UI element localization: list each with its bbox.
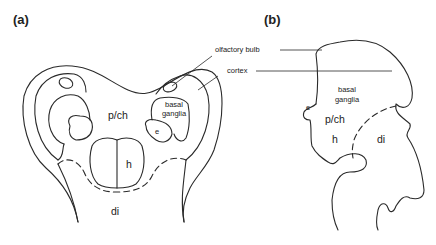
- panel-b-label: (b): [264, 13, 281, 26]
- panel-a-dashed-boundary: [58, 158, 186, 192]
- panel-a-drawing: [23, 56, 222, 222]
- panel-a-di-label: di: [111, 206, 119, 217]
- panel-a-h-left: [90, 138, 117, 188]
- panel-a-right-olfactory-bulb: [162, 80, 178, 93]
- panel-b-basal-ganglia-label-2: ganglia: [329, 96, 365, 104]
- panel-a-left-inner-cortex: [35, 74, 86, 160]
- panel-b-pch-label: p/ch: [325, 114, 345, 125]
- panel-a-basal-ganglia-label-1: basal: [159, 101, 189, 109]
- panel-a-left-olfactory-bulb: [58, 76, 75, 90]
- panel-a-pch-label: p/ch: [108, 110, 128, 121]
- panel-a-left-cortex-inner: [58, 144, 64, 160]
- panel-a-basal-ganglia-label-2: ganglia: [157, 110, 191, 118]
- panel-a-right-stalk: [182, 160, 186, 222]
- cortex-leader-a: [198, 76, 218, 90]
- panel-b-e-label: e: [306, 104, 310, 112]
- panel-b-basal-ganglia-label-1: basal: [332, 86, 362, 94]
- panel-a-h-label: h: [126, 159, 132, 170]
- panel-a-outer-outline: [23, 66, 222, 222]
- panel-a-left-e: [69, 115, 93, 140]
- olfactory-bulb-label: olfactory bulb: [215, 46, 260, 54]
- diagram-drawing: [0, 0, 436, 245]
- panel-a-left-stalk: [58, 164, 78, 222]
- panel-a-label: (a): [13, 13, 29, 26]
- panel-a-e-label: e: [155, 128, 159, 136]
- panel-b-h-label: h: [332, 134, 338, 145]
- olfactory-bulb-leader-a: [172, 56, 212, 86]
- panel-b-drawing: [256, 40, 424, 230]
- cortex-label: cortex: [227, 67, 247, 75]
- panel-b-di-label: di: [377, 134, 385, 145]
- brain-diagram-figure: (a) (b) olfactory bulb cortex p/ch basal…: [0, 0, 436, 245]
- panel-b-dashed-boundary: [352, 106, 396, 158]
